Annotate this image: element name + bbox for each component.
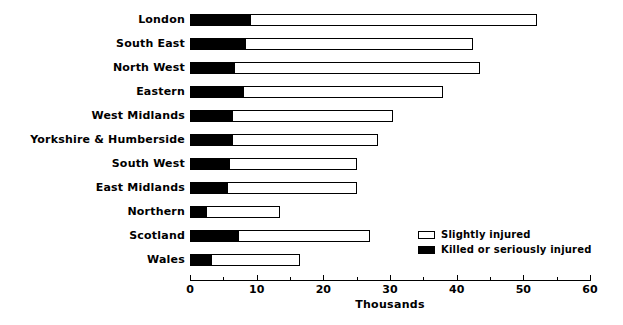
bar-row-label: West Midlands (92, 108, 185, 124)
x-axis-minor-tick (357, 277, 358, 281)
bar-row-label: North West (113, 60, 185, 76)
x-axis-major-tick (523, 275, 524, 281)
bar-segment-slightly-injured (206, 206, 280, 218)
bar-row-label: Wales (147, 252, 185, 268)
x-axis-major-tick (190, 275, 191, 281)
bar-segment-killed-or-seriously-injured (190, 206, 206, 218)
bar-row: North West (0, 60, 623, 84)
bar-segment-slightly-injured (234, 62, 480, 74)
bar-row-label: South West (112, 156, 185, 172)
bar-row-label: Yorkshire & Humberside (30, 132, 185, 148)
bar-segment-killed-or-seriously-injured (190, 254, 211, 266)
x-axis-tick-label: 40 (449, 283, 464, 296)
bar-segment-killed-or-seriously-injured (190, 110, 232, 122)
stacked-bar (190, 110, 393, 122)
bar-row-label: South East (116, 36, 185, 52)
legend-item-killed-or-seriously-injured: Killed or seriously injured (418, 243, 592, 256)
x-axis-tick-label: 10 (249, 283, 264, 296)
stacked-bar (190, 206, 280, 218)
dark-swatch-icon (418, 246, 435, 254)
bar-row: London (0, 12, 623, 36)
x-axis-minor-tick (290, 277, 291, 281)
stacked-bar (190, 86, 443, 98)
x-axis-minor-tick (490, 277, 491, 281)
x-axis-major-tick (257, 275, 258, 281)
x-axis-major-tick (590, 275, 591, 281)
stacked-bar (190, 182, 357, 194)
bar-row: West Midlands (0, 108, 623, 132)
bar-segment-slightly-injured (250, 14, 537, 26)
bar-row: South West (0, 156, 623, 180)
bar-segment-killed-or-seriously-injured (190, 14, 250, 26)
x-axis-tick-label: 30 (382, 283, 397, 296)
bar-row: Yorkshire & Humberside (0, 132, 623, 156)
stacked-bar (190, 230, 370, 242)
stacked-bar (190, 62, 480, 74)
chart-legend: Slightly injured Killed or seriously inj… (418, 228, 592, 258)
bar-segment-killed-or-seriously-injured (190, 230, 238, 242)
bar-row: South East (0, 36, 623, 60)
bar-segment-killed-or-seriously-injured (190, 134, 232, 146)
bar-segment-killed-or-seriously-injured (190, 62, 234, 74)
legend-label: Slightly injured (441, 229, 531, 240)
bar-row: Eastern (0, 84, 623, 108)
bar-row-label: Northern (127, 204, 185, 220)
bar-row-label: Scotland (129, 228, 185, 244)
bar-row-label: London (138, 12, 185, 28)
stacked-bar (190, 14, 537, 26)
stacked-bar (190, 38, 473, 50)
bar-segment-killed-or-seriously-injured (190, 86, 243, 98)
bar-segment-slightly-injured (227, 182, 356, 194)
stacked-bar (190, 158, 357, 170)
bar-segment-slightly-injured (232, 110, 393, 122)
bar-segment-slightly-injured (211, 254, 300, 266)
horizontal-stacked-bar-chart: LondonSouth EastNorth WestEasternWest Mi… (0, 0, 623, 325)
bar-segment-slightly-injured (229, 158, 357, 170)
bar-segment-killed-or-seriously-injured (190, 182, 227, 194)
x-axis-major-tick (323, 275, 324, 281)
x-axis-title: Thousands (190, 298, 590, 311)
bar-row: Northern (0, 204, 623, 228)
x-axis-minor-tick (423, 277, 424, 281)
x-axis-tick-label: 50 (516, 283, 531, 296)
bar-row: East Midlands (0, 180, 623, 204)
light-swatch-icon (418, 231, 435, 239)
bar-segment-slightly-injured (238, 230, 370, 242)
legend-label: Killed or seriously injured (441, 244, 592, 255)
x-axis-tick-label: 0 (186, 283, 194, 296)
stacked-bar (190, 254, 300, 266)
bar-row-label: East Midlands (96, 180, 185, 196)
stacked-bar (190, 134, 378, 146)
bar-segment-killed-or-seriously-injured (190, 38, 245, 50)
bar-segment-slightly-injured (232, 134, 378, 146)
bar-segment-slightly-injured (243, 86, 443, 98)
x-axis-major-tick (390, 275, 391, 281)
bar-segment-killed-or-seriously-injured (190, 158, 229, 170)
bar-row-label: Eastern (136, 84, 185, 100)
x-axis-major-tick (457, 275, 458, 281)
legend-item-slightly-injured: Slightly injured (418, 228, 592, 241)
x-axis-tick-label: 20 (316, 283, 331, 296)
x-axis-tick-label: 60 (582, 283, 597, 296)
bar-segment-slightly-injured (245, 38, 474, 50)
x-axis-minor-tick (223, 277, 224, 281)
x-axis-minor-tick (557, 277, 558, 281)
